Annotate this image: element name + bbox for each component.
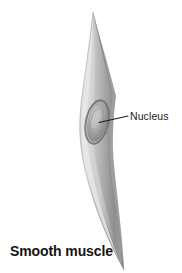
figure-caption: Smooth muscle — [10, 243, 113, 260]
cell-body-group — [80, 12, 124, 270]
nucleus-label: Nucleus — [130, 110, 169, 122]
smooth-muscle-figure: Nucleus Smooth muscle — [0, 0, 182, 273]
smooth-muscle-cell-illustration — [0, 0, 182, 273]
